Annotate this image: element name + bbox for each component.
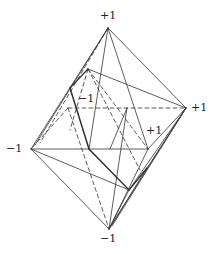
label-left: −1 [6,143,22,154]
edge-top-right [108,28,186,108]
edge-top-front [108,28,148,149]
label-back: −1 [78,93,94,104]
inner-edge [31,149,129,190]
inner-edge [89,28,108,149]
dashed-edge [68,108,109,229]
octahedron-diagram: +1 +1 −1 −1 −1 +1 [0,0,215,254]
label-bottom: −1 [100,233,116,244]
dashed-edge [88,69,140,170]
label-top: +1 [100,10,116,21]
inner-edge [147,108,186,168]
label-right: +1 [191,102,207,113]
edge-bottom-left [31,149,109,229]
label-front: +1 [146,125,162,136]
dashed-edge-back-top [40,28,108,143]
inner-edge [109,168,147,229]
octahedron-svg [0,0,215,254]
